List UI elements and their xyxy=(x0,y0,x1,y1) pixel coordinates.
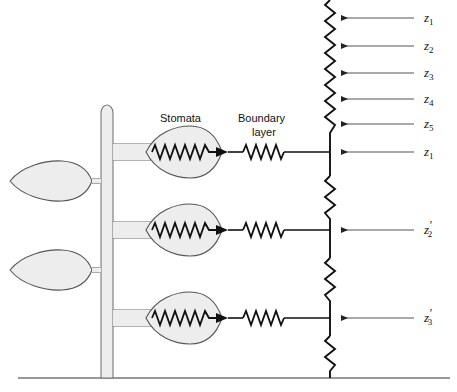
flux-arrow-group-z5: z5 xyxy=(341,116,434,133)
upper-leaf xyxy=(10,161,101,201)
flux-arrow-group-z3: z3 xyxy=(341,65,434,82)
figure-container: z1 z2 z3 z4 z5 xyxy=(0,0,457,392)
plant-stem xyxy=(101,105,113,378)
upper-branch xyxy=(113,126,330,178)
stomata-label: Stomata xyxy=(160,112,202,124)
flux-label-z2: z2 xyxy=(423,38,434,55)
boundary-layer-resistor xyxy=(243,145,284,159)
flux-label-z5: z5 xyxy=(423,116,434,133)
flux-arrow-group-z2-prime: z'2 xyxy=(341,218,432,239)
boundary-layer-label-line1: Boundary xyxy=(238,112,286,124)
boundary-layer-resistor xyxy=(243,223,284,237)
flux-arrow-group-z1-branch: z1 xyxy=(341,144,434,161)
flux-arrow-group-z2: z2 xyxy=(341,38,434,55)
boundary-layer-resistor xyxy=(243,311,284,325)
atmosphere-resistance-column xyxy=(325,0,335,378)
flux-label-z1-branch: z1 xyxy=(423,144,434,161)
flux-label-z3-prime: z'3 xyxy=(423,306,433,327)
flux-label-z2-prime: z'2 xyxy=(423,218,432,239)
lower-leaf xyxy=(10,250,101,290)
flux-label-z4: z4 xyxy=(423,91,434,108)
lower-branch xyxy=(113,292,330,344)
resistance-network-diagram: z1 z2 z3 z4 z5 xyxy=(0,0,457,392)
flux-arrow-group-z4: z4 xyxy=(341,91,434,108)
middle-branch xyxy=(113,204,330,256)
boundary-layer-label-line2: layer xyxy=(252,126,276,138)
flux-arrow-group-z1-top: z1 xyxy=(341,10,434,27)
flux-label-z3: z3 xyxy=(423,65,434,82)
flux-arrow-group-z3-prime: z'3 xyxy=(341,306,433,327)
flux-label-z1-top: z1 xyxy=(423,10,434,27)
